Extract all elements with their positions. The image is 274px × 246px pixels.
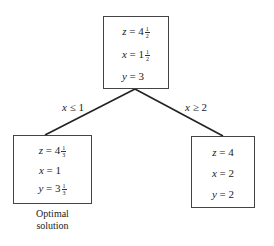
whole-part: 2 [229, 188, 235, 200]
edge-root-right [135, 89, 223, 136]
equals: = [130, 70, 136, 82]
denominator: 2 [145, 33, 150, 39]
optimal-solution-caption: Optimal solution [13, 208, 92, 232]
whole-part: 2 [229, 167, 235, 179]
numerator: 1 [145, 26, 150, 33]
left-x: x = 1 [9, 164, 91, 176]
var-label: z [122, 25, 126, 37]
whole-part: 4 [55, 144, 61, 156]
root-node: z = 412 x = 112 y = 3 [103, 16, 169, 89]
equals: = [220, 188, 226, 200]
denominator: 3 [62, 190, 67, 196]
equals: = [129, 25, 135, 37]
bound-value: 1 [78, 101, 84, 113]
whole-part: 1 [56, 164, 62, 176]
edge-label-left: x ≤ 1 [62, 101, 84, 113]
left-z: z = 413 [14, 144, 91, 158]
edge-root-left [45, 89, 135, 135]
equals: = [220, 167, 226, 179]
whole-part: 4 [138, 25, 144, 37]
var-label: x [62, 101, 67, 113]
whole-part: 3 [55, 182, 61, 194]
edge-label-right: x ≥ 2 [185, 101, 207, 113]
operator: ≥ [193, 101, 199, 113]
root-x: x = 112 [104, 48, 168, 62]
var-label: y [122, 70, 127, 82]
equals: = [46, 144, 52, 156]
bound-value: 2 [201, 101, 207, 113]
operator: ≤ [70, 101, 76, 113]
fraction: 13 [61, 145, 66, 158]
whole-part: 3 [139, 70, 145, 82]
var-label: y [38, 182, 43, 194]
root-y: y = 3 [98, 70, 168, 82]
numerator: 1 [145, 49, 150, 56]
var-label: x [39, 164, 44, 176]
denominator: 2 [145, 56, 150, 62]
right-x: x = 2 [192, 167, 254, 179]
fraction: 13 [62, 183, 67, 196]
right-y: y = 2 [192, 188, 254, 200]
var-label: x [185, 101, 190, 113]
root-z: z = 412 [104, 25, 168, 39]
var-label: x [212, 167, 217, 179]
numerator: 1 [61, 145, 66, 152]
caption-line-2: solution [13, 220, 92, 232]
numerator: 1 [62, 183, 67, 190]
whole-part: 4 [228, 146, 234, 158]
equals: = [219, 146, 225, 158]
equals: = [130, 48, 136, 60]
var-label: z [212, 146, 216, 158]
whole-part: 1 [139, 48, 145, 60]
fraction: 12 [145, 26, 150, 39]
right-node: z = 4 x = 2 y = 2 [191, 136, 255, 208]
equals: = [47, 164, 53, 176]
var-label: z [39, 144, 43, 156]
caption-line-1: Optimal [13, 208, 92, 220]
var-label: x [122, 48, 127, 60]
left-node: z = 413 x = 1 y = 313 [13, 135, 92, 204]
fraction: 12 [145, 49, 150, 62]
denominator: 3 [61, 152, 66, 158]
left-y: y = 313 [14, 182, 91, 196]
right-z: z = 4 [192, 146, 254, 158]
var-label: y [212, 188, 217, 200]
equals: = [46, 182, 52, 194]
